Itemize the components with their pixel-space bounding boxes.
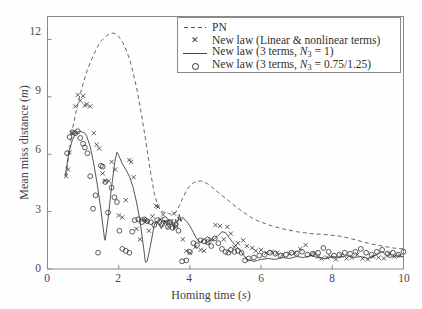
y-axis-label-close: ) — [17, 85, 31, 89]
x-tick-label-6: 6 — [248, 272, 274, 284]
legend-label-pn: PN — [212, 21, 227, 34]
x-axis-label-text: Homing time ( — [171, 288, 242, 302]
legend-item-pn: PN — [178, 21, 400, 34]
legend-item-three-terms-n075: New law (3 terms, N3 = 0.75/1.25) — [178, 60, 400, 73]
chart-figure: 12 9 6 3 0 0 2 4 6 8 10 Homing time (s) … — [0, 0, 422, 309]
x-marker-icon: ✕ — [178, 34, 212, 47]
x-tick-label-8: 8 — [319, 272, 345, 284]
dashed-line-icon — [178, 21, 212, 34]
x-tick-label-4: 4 — [176, 272, 202, 284]
legend-label-three-terms-n1-text: New law (3 terms, — [212, 45, 300, 57]
x-tick-label-2: 2 — [105, 272, 131, 284]
legend-n-value-2: = 0.75/1.25) — [312, 58, 372, 70]
legend-n-value-1: = 1) — [312, 45, 334, 57]
y-axis-label-unit: m — [17, 89, 31, 98]
legend-label-three-terms-n075-text: New law (3 terms, — [212, 58, 300, 70]
solid-line-icon — [178, 47, 212, 60]
x-axis-label: Homing time (s) — [0, 288, 422, 303]
circle-marker-icon — [178, 60, 212, 73]
y-tick-label-12: 12 — [17, 25, 41, 37]
y-axis-label-text: Mean miss distance ( — [17, 98, 31, 200]
x-tick-label-0: 0 — [34, 272, 60, 284]
x-tick-label-10: 10 — [391, 272, 417, 284]
x-axis-label-close: ) — [247, 288, 251, 302]
legend-n-symbol-1: N — [300, 45, 308, 57]
legend-n-symbol-2: N — [300, 58, 308, 70]
legend-label-three-terms-n075: New law (3 terms, N3 = 0.75/1.25) — [212, 58, 371, 74]
y-axis-label: Mean miss distance (m) — [17, 53, 32, 233]
chart-legend: PN ✕ New law (Linear & nonlinear terms) … — [177, 17, 401, 73]
